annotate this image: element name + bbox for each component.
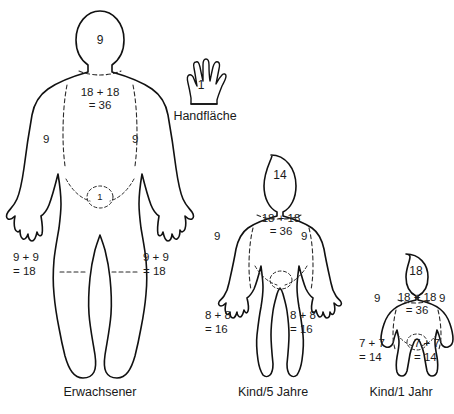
child5-left-arm-label: 9 [214,230,220,244]
adult-right-arm-label: 9 [132,133,138,147]
child5-left-leg-label-line1: 8 + 8 [205,309,249,323]
child5-caption: Kind/5 Jahre [210,385,336,400]
adult-caption: Erwachsener [30,385,170,400]
hand-palm-caption: Handfläche [155,109,255,124]
infant1-right-leg-label-line2: = 14 [414,351,454,365]
child5-left-leg-label-line2: = 16 [205,323,249,337]
adult-head-label: 9 [86,33,114,47]
adult-torso-label-line1: 18 + 18 [69,86,131,100]
adult-left-leg-label-line2: = 18 [13,265,57,279]
adult-left-leg-label-line1: 9 + 9 [13,251,57,265]
infant1-left-leg-label-line2: = 14 [359,351,399,365]
infant1-right-leg-label-line1: 7 + 7 [414,337,454,351]
child5-right-leg-label-line2: = 16 [290,323,334,337]
infant1-torso-label-line2: = 36 [386,304,448,318]
adult-genital-label: 1 [93,191,107,202]
infant1-right-arm-label: 9 [439,292,445,306]
infant1-left-leg-label-line1: 7 + 7 [359,337,399,351]
adult-left-arm-label: 9 [43,133,49,147]
adult-right-leg-label-line1: 9 + 9 [143,251,187,265]
adult-right-leg-label-line2: = 18 [143,265,187,279]
child5-torso-label-line1: 18 + 18 [250,212,312,226]
adult-torso-label-line2: = 36 [69,99,131,113]
infant1-caption: Kind/1 Jahr [348,385,454,400]
hand-palm-value: 1 [190,78,212,92]
child5-head-label: 14 [265,168,295,182]
infant1-left-arm-label: 9 [374,292,380,306]
child5-right-leg-label-line1: 8 + 8 [290,309,334,323]
infant1-head-label: 18 [402,264,430,278]
child5-right-arm-label: 9 [301,230,307,244]
child5-figure-outline [198,148,344,378]
rule-of-nines-diagram: 9 18 + 18 = 36 9 9 1 9 + 9 = 18 9 + 9 = … [0,0,454,414]
